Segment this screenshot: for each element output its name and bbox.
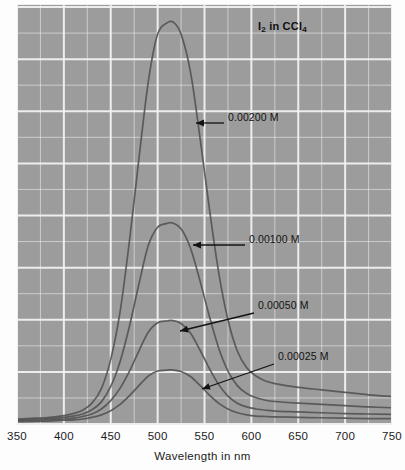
x-tick-label-350: 350 xyxy=(7,430,27,442)
x-tick-label-650: 650 xyxy=(288,430,308,442)
x-tick-label-500: 500 xyxy=(148,430,168,442)
chart-title: I2 in CCl4 xyxy=(258,20,307,32)
x-tick-label-550: 550 xyxy=(195,430,215,442)
x-tick-label-750: 750 xyxy=(382,430,402,442)
chart-title-sub-iodine: 2 xyxy=(261,25,266,34)
x-tick-label-450: 450 xyxy=(101,430,121,442)
concentration-label-000025M: 0.00025 M xyxy=(278,350,329,362)
x-tick-label-600: 600 xyxy=(241,430,261,442)
chart-title-sub-ccl4: 4 xyxy=(302,25,307,34)
concentration-label-000100M: 0.00100 M xyxy=(249,233,300,245)
plot-area xyxy=(17,4,392,425)
x-axis-title: Wavelength in nm xyxy=(0,450,405,462)
x-tick-label-400: 400 xyxy=(54,430,74,442)
absorption-spectrum-figure: I2 in CCl4 350400450500550600650700750 0… xyxy=(0,0,405,470)
chart-title-mid: in CCl xyxy=(266,20,302,32)
concentration-label-000200M: 0.00200 M xyxy=(228,111,279,123)
spectrum-plot-svg xyxy=(17,4,392,425)
x-tick-label-700: 700 xyxy=(335,430,355,442)
concentration-label-000050M: 0.00050 M xyxy=(258,299,309,311)
